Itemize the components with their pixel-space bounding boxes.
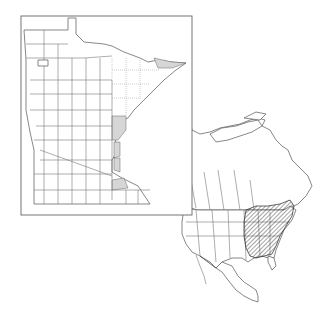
- minnesota-inset: [21, 16, 192, 215]
- highlighted-county-washington: [114, 158, 120, 172]
- mexico: [200, 256, 258, 302]
- lake-red-lake: [38, 60, 48, 66]
- florida: [268, 256, 276, 270]
- arctic-island-north: [244, 112, 266, 120]
- highlighted-county-chisago: [114, 142, 120, 158]
- species-range-hatched: [244, 200, 294, 258]
- distribution-map: [0, 0, 327, 321]
